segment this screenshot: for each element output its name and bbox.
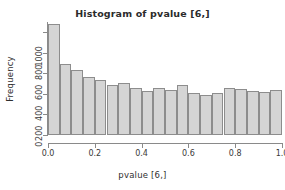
histogram-bar (259, 92, 271, 135)
page-title: Histogram of pvalue [6,] (0, 8, 285, 19)
y-axis-title-label: Frequency (5, 56, 15, 102)
x-axis-tick-label: 0.6 (182, 150, 195, 158)
histogram-bar (153, 88, 165, 135)
y-axis-tick-label: 0 (36, 142, 44, 147)
y-axis-tick-label: 400 (36, 106, 44, 121)
x-axis-tick-label: 0.2 (88, 150, 101, 158)
histogram-bar (48, 24, 60, 135)
x-axis-tick-label: 0.4 (135, 150, 148, 158)
histogram-bar (235, 89, 247, 135)
x-axis-tick (48, 143, 49, 148)
histogram-bar (71, 70, 83, 135)
x-axis-tick (282, 143, 283, 148)
x-axis-line (48, 143, 282, 144)
histogram-bar (224, 88, 236, 135)
x-axis-title: pvalue [6,] (0, 170, 285, 180)
y-axis: 02004006008001000 (39, 22, 48, 135)
y-axis-title: Frequency (4, 22, 16, 135)
x-axis-tick (142, 143, 143, 148)
histogram-bar (83, 77, 95, 135)
y-axis-tick-label: 1000 (36, 46, 44, 66)
y-axis-tick-label: 600 (36, 85, 44, 100)
y-axis-tick-label: 200 (36, 126, 44, 141)
histogram-bar (200, 95, 212, 135)
histogram-bar (130, 88, 142, 135)
x-axis: 0.00.20.40.60.81.0 (48, 143, 282, 153)
histogram-bar (165, 90, 177, 135)
x-axis-tick (188, 143, 189, 148)
x-axis-tick-label: 0.0 (42, 150, 55, 158)
histogram-bar (60, 64, 72, 135)
histogram-bar (177, 85, 189, 135)
histogram-bar (188, 93, 200, 135)
histogram-bar (107, 85, 119, 135)
x-axis-tick (95, 143, 96, 148)
plot-area (48, 22, 282, 135)
x-axis-tick-label: 0.8 (229, 150, 242, 158)
histogram-bar (212, 93, 224, 135)
histogram-bar (247, 91, 259, 135)
histogram-screenshot: Histogram of pvalue [6,] Frequency 02004… (0, 0, 285, 190)
histogram-bars (48, 22, 282, 135)
histogram-bar (95, 80, 107, 135)
y-axis-tick-label: 800 (36, 64, 44, 79)
histogram-bar (142, 91, 154, 135)
x-axis-tick (235, 143, 236, 148)
histogram-bar (270, 90, 282, 135)
histogram-bar (118, 83, 130, 135)
x-axis-tick-label: 1.0 (276, 150, 285, 158)
